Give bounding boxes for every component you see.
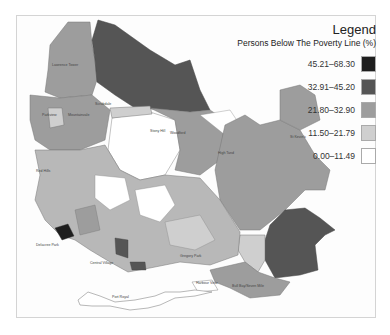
region-label: Mountainvale bbox=[68, 113, 89, 117]
region-label: Port Royal bbox=[112, 295, 129, 299]
legend-rows: 45.21–68.30 32.91–45.20 21.80–32.90 11.5… bbox=[237, 52, 376, 167]
legend-subtitle: Persons Below The Poverty Line (%) bbox=[237, 38, 376, 48]
region-parkview bbox=[48, 108, 64, 128]
region-urban-dark-3 bbox=[130, 262, 146, 270]
legend-title: Legend bbox=[237, 23, 376, 37]
legend-label: 0.00–11.49 bbox=[313, 151, 355, 161]
legend-row: 45.21–68.30 bbox=[237, 52, 376, 75]
legend-swatch bbox=[361, 102, 376, 118]
legend: Legend Persons Below The Poverty Line (%… bbox=[237, 23, 376, 167]
region-label: Parkview bbox=[42, 113, 57, 117]
legend-label: 11.50–21.79 bbox=[308, 128, 355, 138]
region-lawrence-tower bbox=[45, 22, 97, 98]
region-label: Delacree Park bbox=[36, 243, 59, 247]
region-southeast-dark bbox=[265, 208, 335, 278]
region-north-dark bbox=[92, 20, 210, 112]
legend-label: 32.91–45.20 bbox=[308, 82, 355, 92]
legend-swatch bbox=[361, 148, 376, 164]
legend-swatch bbox=[361, 125, 376, 141]
region-label: Bull Bay/Seven Mile bbox=[232, 284, 264, 288]
region-label: Lawrence Tower bbox=[52, 63, 79, 67]
region-label: Central Village bbox=[90, 261, 113, 265]
legend-swatch bbox=[361, 56, 376, 72]
region-label: Red Hills bbox=[36, 169, 51, 173]
region-label: Scrubdale bbox=[95, 102, 111, 106]
legend-row: 32.91–45.20 bbox=[237, 75, 376, 98]
legend-swatch bbox=[361, 79, 376, 95]
legend-row: 11.50–21.79 bbox=[237, 121, 376, 144]
legend-row: 21.80–32.90 bbox=[237, 98, 376, 121]
region-label: Harbour View bbox=[196, 281, 218, 285]
region-label: High Tand bbox=[218, 151, 234, 155]
legend-label: 21.80–32.90 bbox=[308, 105, 355, 115]
region-label: Gregory Park bbox=[180, 254, 202, 258]
region-port-royal bbox=[78, 290, 212, 310]
region-label: Woodford bbox=[170, 131, 186, 135]
region-label: Stony Hill bbox=[150, 129, 165, 133]
legend-label: 45.21–68.30 bbox=[308, 59, 355, 69]
legend-row: 0.00–11.49 bbox=[237, 144, 376, 167]
